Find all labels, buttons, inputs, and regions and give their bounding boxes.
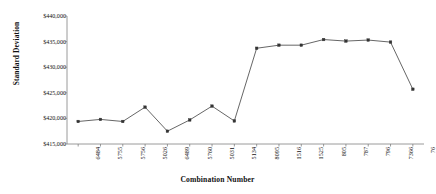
x-tick-label-text: 8095 (274, 147, 280, 159)
x-tick-label-text: 6484 (95, 147, 101, 159)
x-axis-title: Combination Number (0, 175, 435, 184)
x-tick-label-text: 5134 (251, 147, 257, 159)
x-tick-label-text: 5756 (140, 147, 146, 159)
x-tick-label-text: 805 (341, 147, 347, 156)
x-tick-label-text: 6489 (184, 147, 190, 159)
x-tick-label-text: 1516 (296, 147, 302, 159)
x-tick-label-text: 5755 (117, 147, 123, 159)
x-tick-label-text: 5031 (229, 147, 235, 159)
x-tick-label-text: 76 (430, 147, 436, 153)
x-tick-label-text: 1525 (318, 147, 324, 159)
x-tick-label-text: 5026 (162, 147, 168, 159)
x-tick-label-text: 7366 (408, 147, 414, 159)
x-tick-label-text: 796 (385, 147, 391, 156)
x-tick-label-text: 787 (363, 147, 369, 156)
x-tick-label-text: 5760 (207, 147, 213, 159)
